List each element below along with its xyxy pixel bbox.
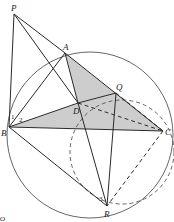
geometry-figure: P A B C D Q R 1 2 3 O <box>0 0 174 222</box>
dashed-segment-cr <box>107 131 163 206</box>
angle-label-1: 1 <box>11 113 15 121</box>
label-a: A <box>62 42 69 52</box>
angle-label-3: 3 <box>99 195 103 203</box>
label-d: D <box>72 106 80 116</box>
angle-label-2: 2 <box>19 116 23 124</box>
label-b: B <box>1 128 7 138</box>
corner-mark: O <box>0 215 5 222</box>
segment-pb <box>9 14 14 127</box>
label-p: P <box>10 3 17 13</box>
label-q: Q <box>116 82 123 92</box>
label-r: R <box>103 209 110 219</box>
segment-br <box>9 127 107 206</box>
label-c: C <box>165 127 172 137</box>
segment-pa <box>14 14 65 53</box>
